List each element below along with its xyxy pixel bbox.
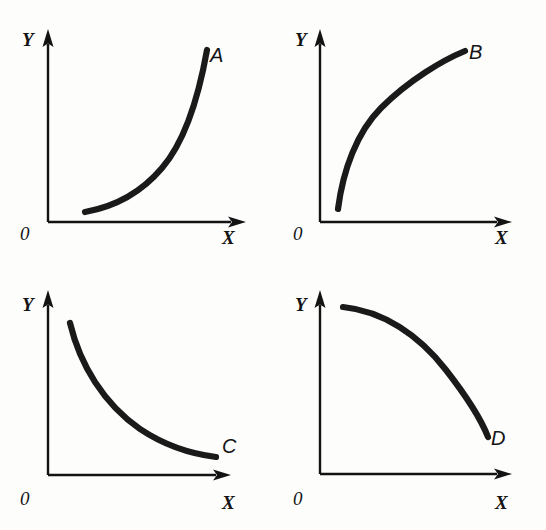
x-axis-label: X	[222, 228, 235, 247]
curve-label-b: B	[469, 42, 482, 62]
panel-c: Y X 0 C	[0, 265, 273, 530]
panel-d: Y X 0 D	[273, 265, 546, 530]
curve-label-d: D	[491, 428, 505, 448]
x-axis-label: X	[495, 493, 508, 512]
curve-d-path	[343, 307, 488, 437]
origin-label: 0	[293, 489, 303, 508]
x-axis-label: X	[222, 493, 235, 512]
figure-four-curve-panels: Y X 0 A Y X 0 B	[0, 0, 546, 530]
panel-c-plot	[0, 265, 273, 530]
origin-label: 0	[20, 489, 30, 508]
origin-label: 0	[293, 224, 303, 243]
y-axis-label: Y	[295, 295, 307, 314]
curve-a-path	[85, 50, 207, 212]
y-axis-label: Y	[295, 30, 307, 49]
origin-label: 0	[20, 224, 30, 243]
curve-label-c: C	[222, 436, 236, 456]
panel-a: Y X 0 A	[0, 0, 273, 265]
curve-b-path	[338, 51, 465, 209]
x-axis-label: X	[495, 228, 508, 247]
curve-label-a: A	[210, 45, 223, 65]
panel-d-plot	[273, 265, 546, 530]
curve-c-path	[70, 323, 216, 457]
y-axis-label: Y	[22, 295, 34, 314]
panel-b: Y X 0 B	[273, 0, 546, 265]
y-axis-label: Y	[22, 30, 34, 49]
panel-b-plot	[273, 0, 546, 265]
panel-a-plot	[0, 0, 273, 265]
